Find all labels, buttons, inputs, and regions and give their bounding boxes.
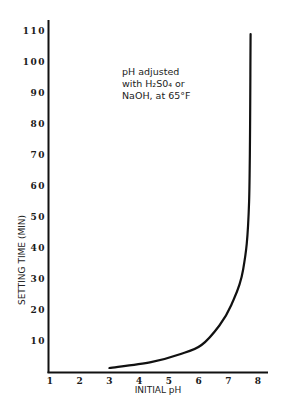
x-tick-label: 3 bbox=[106, 376, 112, 386]
x-tick-label: 1 bbox=[47, 376, 53, 386]
annotation: pH adjusted with H₂S0₄ or NaOH, at 65°F bbox=[122, 66, 190, 101]
y-tick-label: 10 bbox=[30, 336, 46, 346]
y-tick-label: 60 bbox=[30, 181, 46, 191]
x-tick-label: 2 bbox=[77, 376, 83, 386]
y-axis-label: SETTING TIME (MIN) bbox=[17, 215, 27, 305]
annotation-line-2: with H₂S0₄ or bbox=[122, 78, 185, 89]
y-tick-label: 90 bbox=[30, 88, 46, 98]
y-tick-label: 50 bbox=[30, 212, 46, 222]
y-tick-label: 40 bbox=[30, 243, 46, 253]
x-tick-label: 7 bbox=[225, 376, 231, 386]
y-tick-label: 30 bbox=[30, 274, 46, 284]
y-tick-label: 100 bbox=[23, 57, 46, 67]
x-tick-label: 6 bbox=[195, 376, 201, 386]
chart: 102030405060708090100110 12345678 INITIA… bbox=[0, 0, 284, 410]
annotation-line-3: NaOH, at 65°F bbox=[122, 90, 190, 101]
y-tick-label: 70 bbox=[30, 150, 46, 160]
x-axis-label: INITIAL pH bbox=[135, 385, 182, 395]
y-tick-label: 20 bbox=[30, 305, 46, 315]
y-tick-label: 80 bbox=[30, 119, 46, 129]
y-tick-label: 110 bbox=[23, 26, 46, 36]
annotation-line-1: pH adjusted bbox=[122, 66, 179, 77]
x-tick-label: 8 bbox=[255, 376, 261, 386]
